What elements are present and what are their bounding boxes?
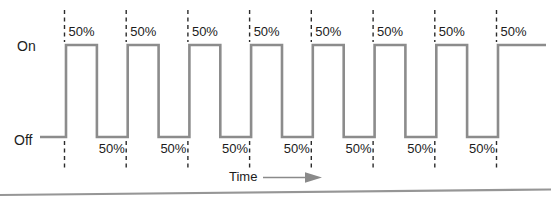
timing-diagram: On Off Time 50%50%50%50%50%50%50%50%50%5…	[0, 0, 551, 200]
duty-cycle-label: 50%	[160, 142, 186, 156]
duty-cycle-label: 50%	[439, 25, 465, 39]
time-arrow-head-icon	[305, 172, 322, 183]
duty-cycle-label: 50%	[315, 25, 341, 39]
time-axis-label: Time	[229, 170, 257, 184]
duty-cycle-label: 50%	[222, 142, 248, 156]
off-level-label: Off	[14, 133, 32, 147]
duty-cycle-label: 50%	[284, 142, 310, 156]
duty-cycle-label: 50%	[254, 25, 280, 39]
duty-cycle-label: 50%	[407, 142, 433, 156]
bottom-rule	[0, 190, 551, 196]
duty-cycle-label: 50%	[377, 25, 403, 39]
duty-cycle-label: 50%	[69, 25, 95, 39]
duty-cycle-label: 50%	[469, 142, 495, 156]
on-level-label: On	[17, 39, 36, 53]
duty-cycle-label: 50%	[500, 25, 526, 39]
duty-cycle-label: 50%	[99, 142, 125, 156]
duty-cycle-label: 50%	[130, 25, 156, 39]
square-wave-path	[40, 45, 546, 137]
duty-cycle-label: 50%	[346, 142, 372, 156]
duty-cycle-label: 50%	[192, 25, 218, 39]
